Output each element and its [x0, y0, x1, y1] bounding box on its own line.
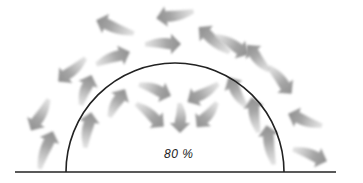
dome-circulation-diagram: 80 % [0, 0, 363, 183]
arrow-icon [145, 34, 181, 54]
percentage-label: 80 % [164, 147, 193, 161]
arrow-icon [71, 71, 101, 108]
arrow-icon [22, 94, 58, 135]
arrow-icon [170, 103, 190, 133]
arrow-icon [285, 104, 326, 135]
arrow-icon [256, 124, 283, 167]
arrow-icon [130, 96, 171, 135]
arrow-icon [93, 42, 134, 73]
arrow-icon [290, 139, 331, 170]
arrow-icon [100, 84, 134, 122]
arrow-icon [30, 128, 63, 173]
arrow-icon [155, 2, 196, 29]
arrow-icon [136, 75, 175, 106]
arrow-icon [75, 111, 101, 150]
arrow-icon [93, 11, 138, 44]
